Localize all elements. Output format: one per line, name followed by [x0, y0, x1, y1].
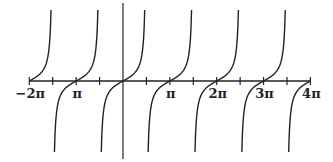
- tangent-chart: −2πππ2π3π4π: [0, 0, 333, 162]
- x-tick-label: 2π: [208, 86, 227, 101]
- x-tick-label: π: [166, 86, 176, 101]
- x-tick-label: 4π: [302, 86, 321, 101]
- tangent-branch: [29, 10, 51, 81]
- x-tick-label: π: [72, 86, 82, 101]
- x-tick-label: −2π: [16, 86, 46, 101]
- x-tick-label: 3π: [255, 86, 274, 101]
